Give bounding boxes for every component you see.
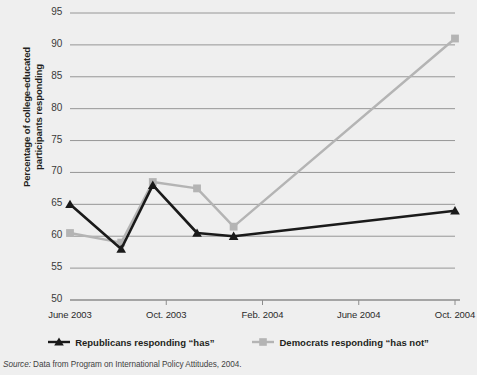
y-tick-95: 95 — [36, 6, 62, 17]
data-marker — [65, 200, 75, 208]
y-tick-90: 90 — [36, 38, 62, 49]
y-tick-80: 80 — [36, 102, 62, 113]
y-tick-65: 65 — [36, 197, 62, 208]
y-tick-60: 60 — [36, 229, 62, 240]
x-tick-label-3: June 2004 — [309, 309, 409, 320]
x-tick-label-2: Feb. 2004 — [213, 309, 313, 320]
y-tick-85: 85 — [36, 70, 62, 81]
chart-legend: Republicans responding “has”Democrats re… — [0, 336, 477, 348]
y-tick-50: 50 — [36, 293, 62, 304]
data-marker — [451, 35, 459, 43]
square-marker-icon — [252, 336, 274, 348]
data-marker — [66, 229, 74, 237]
y-axis-label: Percentage of college-educated participa… — [21, 32, 45, 202]
source-prefix: Source: — [3, 360, 31, 369]
x-tick-label-0: June 2003 — [20, 309, 120, 320]
legend-label: Democrats responding “has not” — [279, 337, 428, 348]
source-text: Data from Program on International Polic… — [31, 360, 242, 369]
y-tick-70: 70 — [36, 165, 62, 176]
source-note: Source: Data from Program on Internation… — [3, 360, 241, 369]
y-tick-55: 55 — [36, 261, 62, 272]
series-republicans — [65, 181, 460, 253]
data-marker — [230, 223, 238, 231]
y-tick-75: 75 — [36, 134, 62, 145]
chart-figure: Percentage of college-educated participa… — [0, 0, 477, 375]
legend-item-democrats[interactable]: Democrats responding “has not” — [252, 336, 428, 348]
data-series-layer — [65, 35, 460, 253]
x-tick-label-4: Oct. 2004 — [405, 309, 477, 320]
series-line — [70, 185, 455, 249]
x-axis — [70, 300, 460, 305]
x-tick-label-1: Oct. 2003 — [116, 309, 216, 320]
triangle-marker-icon — [48, 336, 70, 348]
data-marker — [193, 184, 201, 192]
legend-item-republicans[interactable]: Republicans responding “has” — [48, 336, 214, 348]
legend-label: Republicans responding “has” — [75, 337, 214, 348]
